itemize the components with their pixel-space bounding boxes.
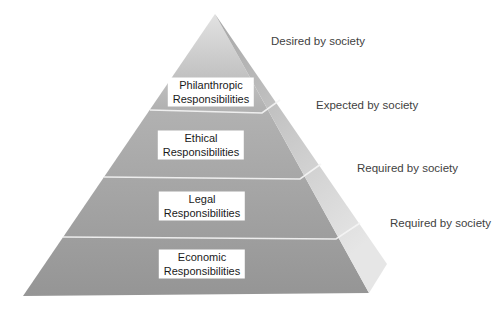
level-label-economic: Economic Responsibilities: [159, 250, 245, 279]
annotation-desired-by-society: Desired by society: [271, 35, 365, 48]
pyramid-graphic: [0, 0, 500, 313]
annotation-expected-by-society: Expected by society: [316, 99, 418, 112]
annotation-required-by-society-economic: Required by society: [390, 217, 491, 230]
level-label-ethical: Ethical Responsibilities: [158, 131, 244, 160]
annotation-required-by-society-legal: Required by society: [357, 162, 458, 175]
level-label-philanthropic: Philanthropic Responsibilities: [168, 78, 254, 107]
csr-pyramid-diagram: Philanthropic Responsibilities Ethical R…: [0, 0, 500, 313]
level-label-legal: Legal Responsibilities: [159, 192, 245, 221]
